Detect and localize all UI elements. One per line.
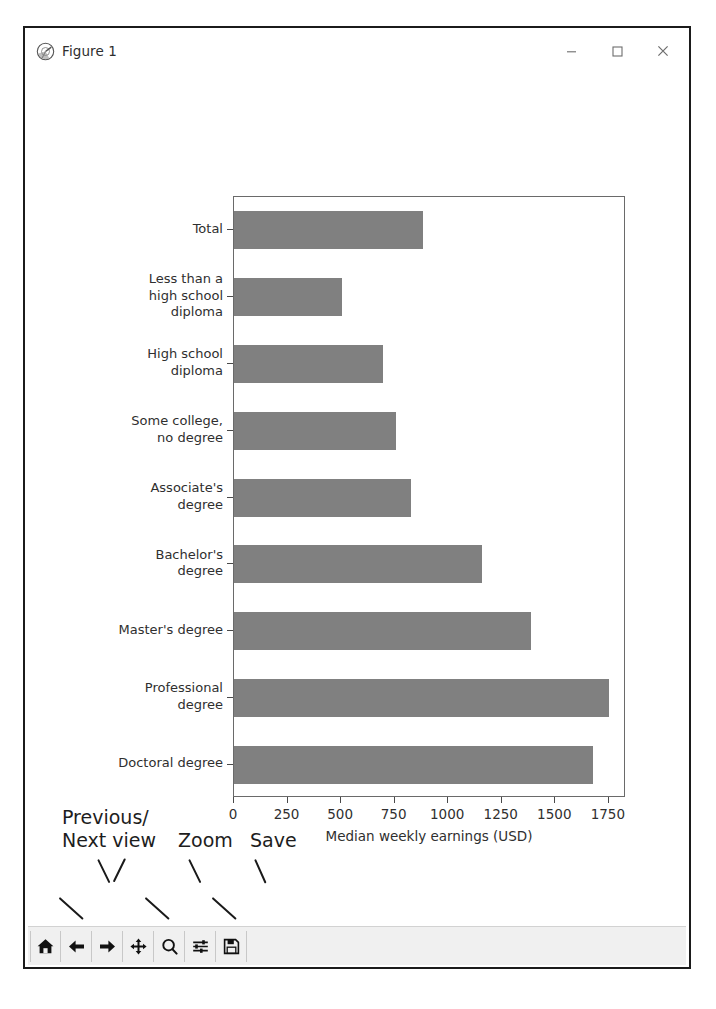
back-button[interactable] [61, 931, 92, 962]
home-button[interactable] [30, 931, 61, 962]
annotation-previous-next: Previous/ Next view [62, 806, 156, 852]
leader-line-pan [144, 897, 169, 920]
arrow-left-icon [67, 937, 86, 956]
bars-layer [234, 197, 624, 796]
bar [234, 679, 609, 717]
y-tick [227, 497, 233, 498]
y-tick [227, 296, 233, 297]
move-cross-icon [129, 937, 148, 956]
subplots-button[interactable] [185, 931, 216, 962]
y-tick [227, 363, 233, 364]
y-axis-label: Professionaldegree [23, 680, 223, 713]
y-tick [227, 430, 233, 431]
bar [234, 612, 531, 650]
leader-line-zoom [188, 859, 202, 883]
maximize-icon[interactable] [594, 31, 640, 71]
y-axis-label: Less than ahigh schooldiploma [23, 271, 223, 321]
y-axis-label: Master's degree [23, 622, 223, 639]
title-bar: Figure 1 [28, 31, 686, 71]
y-axis-label: Some college,no degree [23, 413, 223, 446]
x-tick [554, 797, 555, 803]
minimize-icon[interactable] [548, 31, 594, 71]
annotation-zoom: Zoom [178, 829, 233, 852]
y-axis-label: Doctoral degree [23, 755, 223, 772]
zoom-button[interactable] [154, 931, 185, 962]
y-axis-label: High schooldiploma [23, 346, 223, 379]
leader-line-save [254, 859, 267, 884]
magnifier-icon [160, 937, 179, 956]
y-tick [227, 697, 233, 698]
sliders-icon [191, 937, 210, 956]
plot-axes [233, 196, 625, 797]
bar [234, 412, 396, 450]
x-tick [447, 797, 448, 803]
leader-line-reset [58, 897, 83, 920]
floppy-disk-icon [222, 937, 241, 956]
bar [234, 278, 342, 316]
leader-line-previous [97, 859, 111, 883]
save-button[interactable] [216, 931, 247, 962]
window-title: Figure 1 [62, 43, 117, 59]
x-tick [608, 797, 609, 803]
figure-canvas: TotalLess than ahigh schooldiplomaHigh s… [28, 71, 686, 926]
leader-line-configure [211, 897, 236, 920]
y-axis-label: Bachelor'sdegree [23, 547, 223, 580]
x-tick [340, 797, 341, 803]
x-tick [233, 797, 234, 803]
window-controls [548, 31, 686, 71]
bar [234, 345, 383, 383]
forward-button[interactable] [92, 931, 123, 962]
x-tick [287, 797, 288, 803]
matplotlib-icon [36, 42, 55, 61]
y-axis-label: Associate'sdegree [23, 480, 223, 513]
close-icon[interactable] [640, 31, 686, 71]
matplotlib-toolbar [28, 926, 686, 965]
bar [234, 211, 423, 249]
y-tick [227, 764, 233, 765]
screenshot-root: Figure 1 TotalLess than ahigh schooldipl… [0, 0, 716, 1009]
y-tick [227, 563, 233, 564]
bar [234, 545, 482, 583]
y-tick [227, 229, 233, 230]
figure-window: Figure 1 TotalLess than ahigh schooldipl… [28, 31, 686, 964]
x-tick-label: 1750 [573, 806, 643, 822]
x-tick [501, 797, 502, 803]
leader-line-next [112, 858, 126, 882]
y-axis-label: Total [23, 221, 223, 238]
toolbar-buttons [30, 927, 247, 965]
bar [234, 746, 593, 784]
arrow-right-icon [98, 937, 117, 956]
pan-button[interactable] [123, 931, 154, 962]
x-tick [394, 797, 395, 803]
bar [234, 479, 411, 517]
home-icon [36, 937, 55, 956]
annotation-save: Save [250, 829, 297, 852]
y-tick [227, 630, 233, 631]
